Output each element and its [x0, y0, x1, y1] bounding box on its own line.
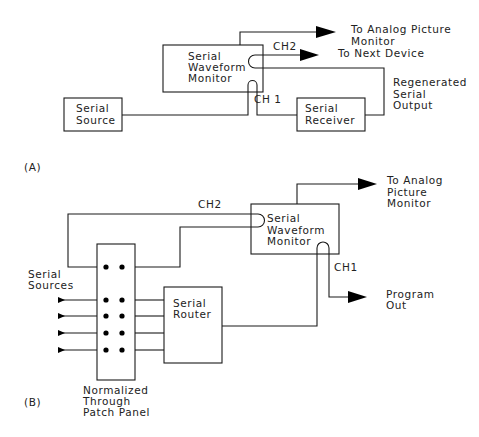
program-out-label-2: Out: [386, 299, 407, 311]
line-to-analog-monitor-b: [297, 184, 360, 204]
monitor-label-a-3: Monitor: [188, 72, 232, 84]
source-label-2: Source: [76, 114, 116, 126]
serial-sources-label-2: Sources: [28, 279, 74, 291]
to-analog-label-a-2: Monitor: [351, 35, 395, 47]
to-analog-label-b-3: Monitor: [387, 197, 431, 209]
jack-icon: [119, 297, 124, 302]
ch2-label-b: CH2: [198, 198, 222, 210]
signal-flow-diagram: Serial Waveform Monitor Serial Source Se…: [0, 0, 479, 437]
arrow-icon: [300, 49, 319, 61]
jack-icon: [119, 264, 124, 269]
arrow-icon: [358, 178, 377, 190]
diagram-a: Serial Waveform Monitor Serial Source Se…: [24, 23, 467, 173]
jack-icon: [103, 297, 108, 302]
ch1-label-b: CH1: [334, 261, 358, 273]
ch1-loop-b: [222, 242, 350, 326]
jack-icon: [103, 347, 108, 352]
monitor-label-b-3: Monitor: [267, 235, 311, 247]
ch1-label-a: CH 1: [254, 93, 282, 105]
arrow-icon: [58, 330, 65, 336]
ch2-label-a: CH2: [273, 40, 297, 52]
to-analog-label-b-1: To Analog: [386, 174, 443, 186]
arrow-icon: [348, 291, 367, 303]
patch-panel-box: [97, 244, 135, 380]
arrow-icon: [58, 347, 65, 353]
diagram-b-label: (B): [24, 396, 41, 408]
diagram-a-label: (A): [24, 161, 41, 173]
monitor-label-b-1: Serial: [267, 212, 300, 224]
jack-icon: [103, 330, 108, 335]
source-label-1: Serial: [76, 102, 109, 114]
arrow-icon: [316, 26, 336, 38]
jack-icon: [119, 347, 124, 352]
receiver-label-2: Receiver: [305, 114, 355, 126]
to-analog-label-a-1: To Analog Picture: [350, 23, 451, 35]
jack-icon: [103, 264, 108, 269]
jack-icon: [119, 330, 124, 335]
regenerated-label-3: Output: [393, 99, 433, 111]
to-next-device-label: To Next Device: [337, 47, 425, 59]
patch-panel-label-3: Patch Panel: [83, 406, 150, 418]
jack-icon: [103, 313, 108, 318]
receiver-label-1: Serial: [305, 102, 338, 114]
regenerated-label-1: Regenerated: [393, 76, 467, 88]
arrow-icon: [58, 297, 65, 303]
jack-icon: [119, 313, 124, 318]
arrow-icon: [58, 313, 65, 319]
diagram-b: Serial Waveform Monitor CH2 CH1 To Analo…: [24, 174, 443, 418]
router-label-2: Router: [173, 308, 211, 320]
